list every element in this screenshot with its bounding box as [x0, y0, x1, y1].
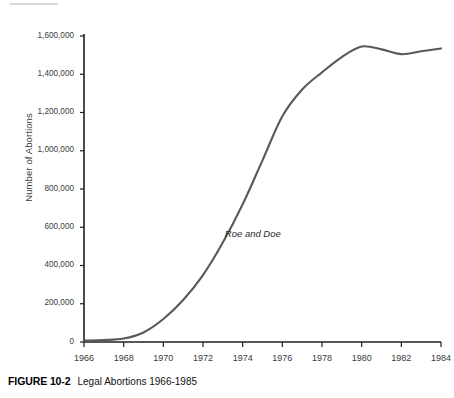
y-axis-tick-label: 200,000: [12, 298, 74, 307]
curve-annotation-roe-and-doe: Roe and Doe: [225, 228, 281, 239]
figure-caption-text: Legal Abortions 1966-1985: [78, 376, 198, 387]
figure-caption: FIGURE 10-2Legal Abortions 1966-1985: [8, 375, 197, 387]
x-axis-tick-label: 1978: [302, 353, 342, 363]
figure-chart-legal-abortions: Number of Abortions 0200,000400,000600,0…: [0, 0, 454, 398]
x-axis-tick-label: 1980: [342, 353, 382, 363]
x-axis-tick-label: 1982: [381, 353, 421, 363]
x-axis-tick-label: 1976: [262, 353, 302, 363]
y-axis-tick-label: 1,200,000: [12, 107, 74, 116]
x-axis-tick-label: 1970: [143, 353, 183, 363]
y-axis-tick-label: 1,000,000: [12, 145, 74, 154]
x-axis-tick-label: 1968: [104, 353, 144, 363]
figure-caption-label: FIGURE 10-2: [8, 375, 71, 387]
y-axis-tick-label: 0: [12, 337, 74, 346]
y-axis-tick-label: 800,000: [12, 184, 74, 193]
y-axis-title: Number of Abortions: [23, 78, 34, 238]
x-axis-tick-label: 1974: [223, 353, 263, 363]
y-axis-tick-label: 600,000: [12, 222, 74, 231]
x-axis-tick-label: 1972: [183, 353, 223, 363]
y-axis-tick-label: 1,600,000: [12, 31, 74, 40]
x-axis-tick-label: 1984: [421, 353, 454, 363]
y-axis-tick-label: 400,000: [12, 260, 74, 269]
y-axis-tick-label: 1,400,000: [12, 69, 74, 78]
x-axis-tick-label: 1966: [64, 353, 104, 363]
line-series-legal-abortions: [84, 46, 441, 340]
